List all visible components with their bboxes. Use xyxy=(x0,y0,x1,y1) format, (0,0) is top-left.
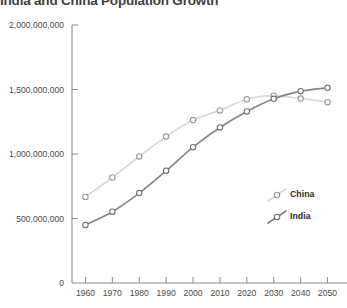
y-axis-tick-label: 2,000,000,000 xyxy=(9,20,64,30)
data-point-marker-china xyxy=(244,97,249,102)
chart-container: India and China Population Growth 0500,0… xyxy=(0,0,347,308)
x-axis-tick-label: 1970 xyxy=(103,288,122,298)
legend-label-india: India xyxy=(290,211,311,221)
x-axis-tick-label: 1980 xyxy=(130,288,149,298)
data-point-marker-china xyxy=(83,194,88,199)
legend-marker-china xyxy=(274,192,279,197)
data-point-marker-india xyxy=(83,222,88,227)
data-point-marker-india xyxy=(163,168,168,173)
y-axis-tick-label: 500,000,000 xyxy=(16,214,64,224)
data-point-marker-china xyxy=(217,108,222,113)
legend-marker-india xyxy=(274,214,279,219)
y-axis-tick-label: 0 xyxy=(59,278,64,288)
y-axis-tick-label: 1,000,000,000 xyxy=(9,149,64,159)
x-axis-tick-label: 2010 xyxy=(210,288,229,298)
x-axis-tick-label: 2000 xyxy=(183,288,202,298)
y-axis-tick-label: 1,500,000,000 xyxy=(9,85,64,95)
data-point-marker-india xyxy=(137,190,142,195)
x-axis-tick-label: 2040 xyxy=(291,288,310,298)
x-axis-tick-label: 1960 xyxy=(76,288,95,298)
data-point-marker-china xyxy=(298,96,303,101)
data-point-marker-india xyxy=(110,209,115,214)
series-line-china xyxy=(85,96,327,197)
data-point-marker-china xyxy=(190,117,195,122)
x-axis-tick-label: 1990 xyxy=(157,288,176,298)
data-point-marker-india xyxy=(298,88,303,93)
data-point-marker-india xyxy=(190,144,195,149)
data-point-marker-india xyxy=(271,96,276,101)
data-point-marker-china xyxy=(163,134,168,139)
data-point-marker-china xyxy=(325,99,330,104)
data-point-marker-india xyxy=(325,85,330,90)
data-point-marker-china xyxy=(110,175,115,180)
x-axis-tick-label: 2030 xyxy=(264,288,283,298)
x-axis-tick-label: 2020 xyxy=(237,288,256,298)
x-axis-tick-label: 2050 xyxy=(318,288,337,298)
data-point-marker-india xyxy=(217,125,222,130)
chart-legend: ChinaIndia xyxy=(268,189,315,223)
data-point-marker-india xyxy=(244,109,249,114)
series-line-india xyxy=(85,88,327,225)
data-point-marker-china xyxy=(137,154,142,159)
legend-label-china: China xyxy=(290,189,315,199)
chart-plot-area: 0500,000,0001,000,000,0001,500,000,0002,… xyxy=(0,0,347,308)
